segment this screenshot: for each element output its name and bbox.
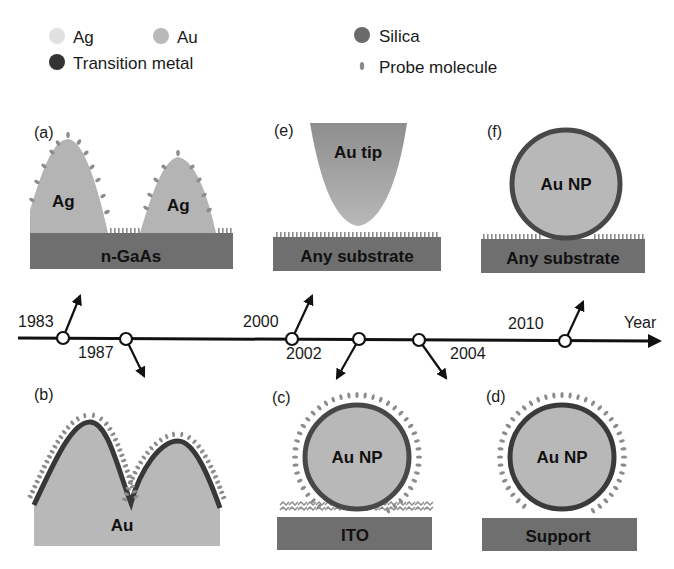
panel-tag: (e) <box>274 122 294 139</box>
probe-molecule <box>215 480 221 485</box>
linker-molecule <box>298 507 307 510</box>
panel-b: (b) Au <box>27 386 227 546</box>
panel-tag: (a) <box>34 124 54 141</box>
probe-molecule <box>515 498 522 505</box>
probe-molecule <box>364 232 366 237</box>
probe-molecule <box>392 232 394 237</box>
linker-molecule <box>415 507 424 510</box>
probe-molecule <box>620 447 626 451</box>
probe-molecule <box>124 469 130 474</box>
probe-molecule <box>505 423 512 429</box>
axis-label: Year <box>624 314 657 331</box>
probe-molecule <box>292 455 298 458</box>
event-arrow <box>292 296 312 339</box>
linker-molecule <box>298 502 307 505</box>
probe-molecule <box>360 232 362 237</box>
probe-molecule <box>138 460 144 466</box>
substrate-label: ITO <box>341 526 369 545</box>
probe-molecule <box>388 232 390 237</box>
event-marker <box>353 333 365 345</box>
probe-molecule <box>230 228 232 233</box>
probe-molecule <box>27 494 33 499</box>
probe-molecule <box>176 150 180 156</box>
probe-molecule <box>112 437 118 442</box>
probe-molecule <box>436 232 438 237</box>
probe-molecule <box>196 444 202 450</box>
probe-molecule <box>495 234 497 239</box>
probe-molecule <box>218 228 220 233</box>
probe-molecule <box>411 431 418 436</box>
legend: Ag Au Transition metal Silica Probe mole… <box>49 27 497 77</box>
probe-molecule <box>415 463 421 467</box>
event-marker <box>57 332 69 344</box>
linker-molecule <box>397 507 406 510</box>
silica-swatch <box>354 27 370 43</box>
linker-molecule <box>424 502 433 505</box>
transition-metal-swatch <box>49 54 65 70</box>
probe-molecule <box>400 232 402 237</box>
linker-molecule <box>415 502 424 505</box>
linker-molecule <box>289 502 298 505</box>
probe-molecule <box>83 413 87 419</box>
probe-molecule <box>44 459 50 464</box>
probe-molecule <box>300 423 307 429</box>
linker-molecule <box>397 502 406 505</box>
probe-molecule <box>296 232 298 237</box>
particle-label: Au NP <box>541 175 592 194</box>
probe-molecule <box>95 177 102 183</box>
event-year-label: 2000 <box>243 313 279 330</box>
probe-molecule <box>590 507 596 514</box>
probe-molecule <box>414 439 421 444</box>
probe-molecule <box>619 439 626 444</box>
probe-molecule <box>75 416 80 422</box>
linker-molecule <box>316 502 325 505</box>
probe-molecule <box>217 485 223 490</box>
linker-molecule <box>307 502 316 505</box>
substrate-label: n-GaAs <box>101 247 161 266</box>
probe-molecule <box>528 400 534 407</box>
event-marker <box>286 333 298 345</box>
panel-d: (d) Au NP Support <box>482 388 637 551</box>
probe-molecule <box>497 455 503 458</box>
probe-molecule <box>210 469 216 474</box>
probe-molecule-swatch <box>360 62 364 70</box>
probe-molecule <box>608 492 615 498</box>
probe-molecule <box>121 458 127 463</box>
probe-molecule <box>122 228 124 233</box>
probe-molecules <box>276 232 438 237</box>
particle-label: Au NP <box>537 448 588 467</box>
probe-molecule <box>316 232 318 237</box>
probe-molecule <box>560 392 563 398</box>
probe-molecule <box>208 464 214 469</box>
probe-molecule <box>336 232 338 237</box>
probe-molecule <box>107 426 113 431</box>
probe-molecule <box>219 490 225 495</box>
probe-molecule <box>110 228 112 233</box>
probe-molecule <box>355 392 358 398</box>
probe-molecule <box>432 232 434 237</box>
panel-c: (c) Au NP ITO <box>272 389 433 550</box>
probe-molecule <box>392 404 398 411</box>
probe-molecule <box>130 228 132 233</box>
event-marker <box>559 335 571 347</box>
timeline-axis <box>18 338 650 341</box>
probe-molecule <box>396 232 398 237</box>
probe-molecule <box>363 392 367 398</box>
probe-molecule <box>499 471 506 476</box>
event-year-label: 2002 <box>286 345 322 362</box>
probe-molecule <box>603 410 610 417</box>
probe-molecule <box>141 455 147 461</box>
probe-molecule <box>164 433 169 439</box>
probe-molecule <box>535 234 537 239</box>
probe-molecule <box>428 232 430 237</box>
probe-molecule <box>328 232 330 237</box>
panel-a: (a) Ag Ag n-GaAs <box>29 124 233 269</box>
probe-molecule <box>132 470 138 475</box>
probe-molecule <box>618 234 620 239</box>
probe-molecule <box>32 484 38 489</box>
probe-molecule <box>117 448 123 453</box>
probe-molecule <box>138 228 140 233</box>
probe-molecule <box>180 431 184 437</box>
event-year-label: 2004 <box>450 345 486 362</box>
probe-molecule <box>212 474 218 479</box>
